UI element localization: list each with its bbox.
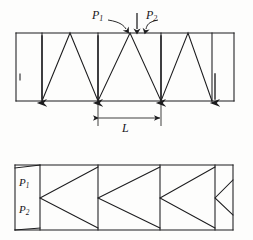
bottom-bay-triangles [40, 167, 233, 228]
label-p2-top: P2 [146, 9, 157, 23]
bottom-first-cell-bracing [15, 165, 40, 230]
top-truss-group [16, 33, 234, 101]
dimension-L-group [98, 104, 161, 126]
figure-root: P1 P2 L P1 P2 [0, 0, 253, 240]
label-p2-bottom: P2 [19, 204, 29, 217]
label-p1-bottom: P1 [19, 177, 29, 190]
truss-node-arrows [42, 36, 215, 99]
label-dimension-L: L [122, 122, 129, 134]
truss-diagram-svg [0, 0, 253, 240]
bottom-panel-group [15, 165, 233, 230]
p1-curved-arrow [108, 20, 126, 29]
truss-diagonal-members [42, 33, 212, 101]
label-p1-top: P1 [92, 9, 103, 23]
